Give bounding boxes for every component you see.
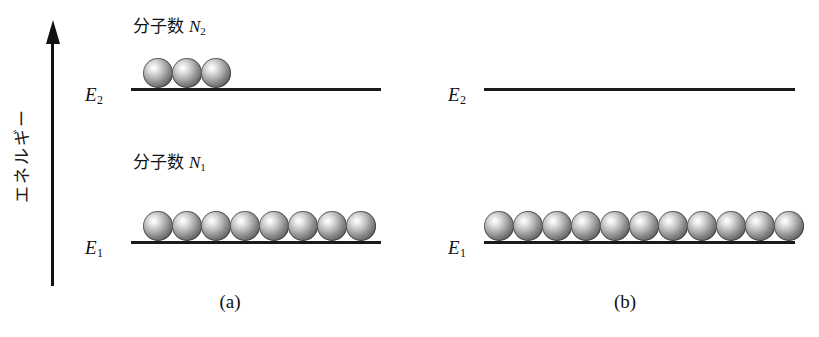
panel-a-level-2-line [131, 88, 381, 91]
panel-b-caption: (b) [575, 291, 675, 313]
panel-b-level-2-line [484, 88, 795, 91]
molecule-sphere [259, 211, 289, 241]
molecule-sphere [629, 211, 659, 241]
panel-a-level-1-tick-label: E1 [85, 237, 103, 261]
molecule-sphere [288, 211, 318, 241]
panel-a-caption: (a) [180, 291, 280, 313]
panel-a-level-1-molecules [143, 211, 375, 241]
panel-a-level-1-population-text: 分子数 [133, 153, 184, 172]
panel-b-level-1-molecules [484, 211, 803, 241]
molecule-sphere [484, 211, 514, 241]
molecule-sphere [716, 211, 746, 241]
molecule-sphere [172, 211, 202, 241]
panel-b-level-2-tick-label: E2 [448, 84, 466, 108]
panel-b-level-1-line [484, 241, 795, 244]
molecule-sphere [201, 211, 231, 241]
panel-a-level-1-population-symbol: N1 [189, 153, 206, 172]
molecule-sphere [542, 211, 572, 241]
molecule-sphere [745, 211, 775, 241]
molecule-sphere [687, 211, 717, 241]
molecule-sphere [600, 211, 630, 241]
panel-a-level-1-line [131, 241, 381, 244]
molecule-sphere [143, 58, 173, 88]
molecule-sphere [230, 211, 260, 241]
energy-level-diagram: エネルギー 分子数N2 E2 分子数N1 E1 (a) E2 [0, 0, 819, 337]
molecule-sphere [658, 211, 688, 241]
panel-a-level-1-population-label: 分子数N1 [133, 148, 206, 173]
panel-a-level-2-population-label: 分子数N2 [133, 12, 206, 37]
panel-a-level-2-molecules [143, 58, 230, 88]
molecule-sphere [513, 211, 543, 241]
molecule-sphere [172, 58, 202, 88]
panel-a-level-2-population-symbol: N2 [189, 17, 206, 36]
panel-a-level-2-tick-label: E2 [85, 84, 103, 108]
panel-b-level-1-tick-label: E1 [448, 237, 466, 261]
molecule-sphere [317, 211, 347, 241]
molecule-sphere [143, 211, 173, 241]
molecule-sphere [774, 211, 804, 241]
molecule-sphere [201, 58, 231, 88]
molecule-sphere [346, 211, 376, 241]
energy-axis-label: エネルギー [0, 137, 85, 173]
panel-a-level-2-population-text: 分子数 [133, 17, 184, 36]
molecule-sphere [571, 211, 601, 241]
